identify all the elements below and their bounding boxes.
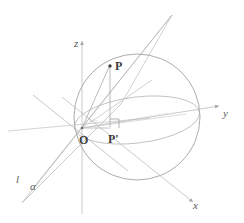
point-p-label: P — [115, 60, 122, 72]
geometry-figure: z y x P P' O l α — [0, 0, 244, 223]
plane-alpha-label: α — [30, 181, 36, 192]
sphere — [72, 54, 203, 180]
origin-dot — [81, 127, 84, 130]
plane-alpha — [8, 14, 175, 203]
plane-alpha-edge-lower-ext — [121, 15, 172, 104]
x-axis-label: x — [193, 200, 198, 211]
z-axis-label: z — [74, 38, 78, 49]
plane-alpha-edge-right — [34, 15, 172, 187]
sphere-outline — [74, 54, 200, 180]
point-p-dot — [108, 64, 111, 67]
point-p-prime-label: P' — [108, 133, 119, 145]
y-axis-label: y — [223, 108, 228, 119]
origin-label: O — [79, 134, 88, 146]
figure-canvas — [0, 0, 244, 223]
line-l-label: l — [16, 174, 19, 185]
ray-o-right — [82, 114, 186, 128]
plane-alpha-edge-spare — [22, 16, 175, 203]
